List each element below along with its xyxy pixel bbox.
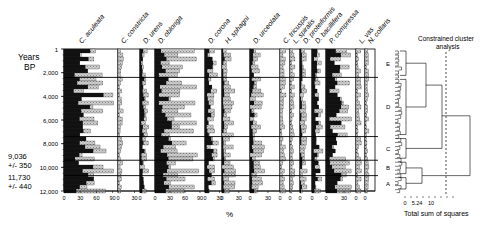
x-tick-label: 60 bbox=[182, 195, 188, 201]
x-tick-label: 30 bbox=[77, 195, 83, 201]
x-tick-label: 0 bbox=[278, 195, 281, 201]
taxa-labels: C. aculeataC. constrictaD. urensD. oblon… bbox=[77, 5, 391, 45]
y-axis: 12,0004,0006,0008,00010,00012,0009,036+/… bbox=[8, 47, 64, 195]
x-tick-label: 0 bbox=[116, 195, 119, 201]
date-label: 11,730 bbox=[8, 173, 30, 182]
x-tick-label: 0 bbox=[62, 195, 65, 201]
cluster-title-2: analysis bbox=[436, 43, 460, 51]
date-error: +/- 440 bbox=[8, 182, 32, 191]
zone-label: E bbox=[386, 61, 390, 67]
date-label: 9,036 bbox=[8, 152, 27, 161]
taxon-label: D. urceolata bbox=[251, 11, 281, 44]
x-tick-label: 0 bbox=[220, 195, 223, 201]
x-tick-label: 0 bbox=[298, 195, 301, 201]
y-tick-label: 6,000 bbox=[43, 118, 59, 124]
y-tick-label: 2,000 bbox=[43, 70, 59, 76]
cluster-tick-label: 0 bbox=[403, 200, 406, 206]
zone-label: D bbox=[386, 104, 391, 110]
x-tick-label: 30 bbox=[265, 195, 271, 201]
x-tick-label: 0 bbox=[324, 195, 327, 201]
x-tick-label: 0 bbox=[310, 195, 313, 201]
y-tick-label: 12,000 bbox=[40, 189, 59, 195]
x-tick-label: 90 bbox=[110, 195, 116, 201]
zone-label: A bbox=[386, 181, 390, 187]
x-tick-label: 0 bbox=[288, 195, 291, 201]
x-tick-label: 0 bbox=[354, 195, 357, 201]
cluster-dendrogram: EDCBA05.2410 bbox=[386, 51, 470, 206]
x-tick-label: 60 bbox=[93, 195, 99, 201]
x-tick-label: 0 bbox=[138, 195, 141, 201]
y-tick-label: 1 bbox=[55, 47, 59, 53]
date-error: +/- 350 bbox=[8, 161, 32, 170]
zone-label: B bbox=[386, 165, 390, 171]
x-tick-label: 0 bbox=[203, 195, 206, 201]
y-tick-label: 8,000 bbox=[43, 141, 59, 147]
x-tick-label: 90 bbox=[197, 195, 203, 201]
x-tick-label: 0 bbox=[153, 195, 156, 201]
x-tick-label: 30 bbox=[341, 195, 347, 201]
percent-label: % bbox=[226, 210, 233, 219]
taxa-panels bbox=[64, 49, 375, 193]
x-tick-label: 30 bbox=[131, 195, 137, 201]
x-tick-label: 30 bbox=[236, 195, 242, 201]
y-tick-label: 10,000 bbox=[40, 165, 59, 171]
years-label: Years bbox=[18, 52, 39, 62]
x-tick-label: 30 bbox=[167, 195, 173, 201]
cluster-tick-label: 5.24 bbox=[412, 200, 423, 206]
cluster-title-1: Constrained cluster bbox=[418, 35, 475, 42]
cluster-tick-label: 10 bbox=[428, 200, 434, 206]
taxon-label: D. oblonga bbox=[156, 14, 184, 45]
x-tick-label: 0 bbox=[248, 195, 251, 201]
cluster-xlabel: Total sum of squares bbox=[404, 210, 469, 218]
stratigraphic-chart: C. aculeataC. constrictaD. urensD. oblon… bbox=[0, 0, 484, 228]
y-tick-label: 4,000 bbox=[43, 94, 59, 100]
x-tick-label: 0 bbox=[363, 195, 366, 201]
taxon-label: C. aculeata bbox=[77, 13, 105, 45]
bp-label: BP bbox=[24, 62, 36, 72]
zone-label: C bbox=[386, 146, 391, 152]
